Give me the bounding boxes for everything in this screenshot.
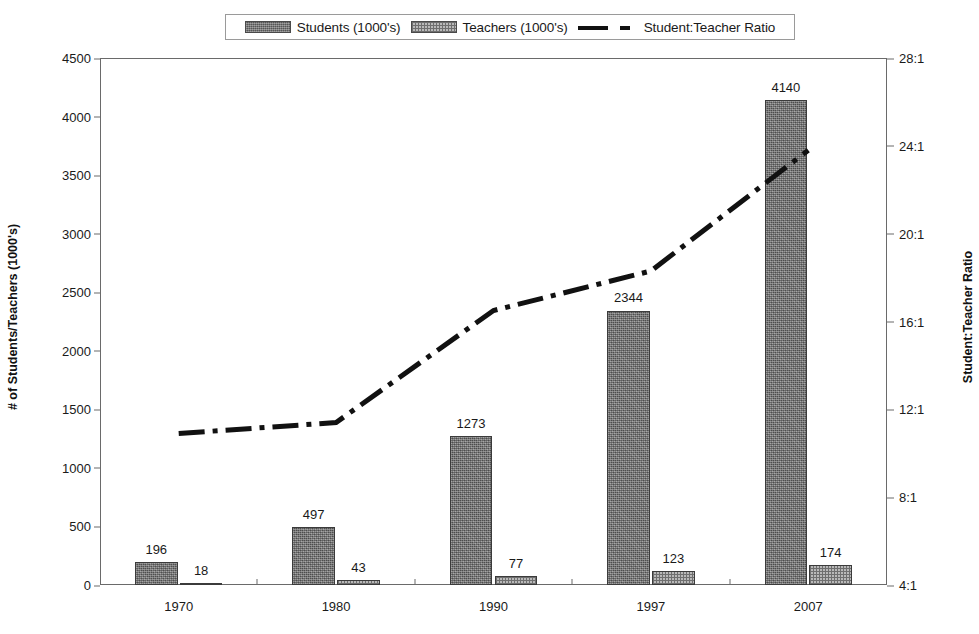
legend-label-teachers: Teachers (1000's)	[463, 20, 568, 35]
right-axis-title-text: Student:Teacher Ratio	[961, 251, 975, 383]
right-axis-title: Student:Teacher Ratio	[957, 0, 979, 634]
legend-label-students: Students (1000's)	[297, 20, 401, 35]
left-tick-label: 3000	[62, 226, 100, 241]
left-tick-label: 4000	[62, 109, 100, 124]
left-tick-label: 1000	[62, 460, 100, 475]
ratio-line-path[interactable]	[179, 150, 809, 433]
right-tick-label: 8:1	[887, 490, 917, 505]
right-tick-label: 16:1	[887, 314, 924, 329]
left-tick-label: 4500	[62, 51, 100, 66]
left-tick-label: 2000	[62, 343, 100, 358]
right-tick-label: 24:1	[887, 138, 924, 153]
right-tick-label: 4:1	[887, 578, 917, 593]
chart-legend: Students (1000's) Teachers (1000's) Stud…	[225, 14, 795, 40]
legend-item-ratio: Student:Teacher Ratio	[578, 20, 775, 35]
chart-plot-area: 450040003500300025002000150010005000 28:…	[100, 58, 887, 585]
left-tick-label: 3500	[62, 168, 100, 183]
left-axis-title: # of Students/Teachers (1000's)	[2, 0, 24, 634]
left-tick-label: 2500	[62, 285, 100, 300]
legend-item-teachers: Teachers (1000's)	[411, 20, 568, 35]
x-tick-label: 1997	[636, 599, 665, 614]
legend-label-ratio: Student:Teacher Ratio	[644, 20, 775, 35]
right-tick-label: 12:1	[887, 402, 924, 417]
left-tick-label: 500	[69, 519, 100, 534]
swatch-students-icon	[245, 21, 291, 33]
dash-dot-line-icon	[578, 21, 638, 33]
ratio-line-layer	[100, 58, 887, 585]
x-tick-label: 1970	[164, 599, 193, 614]
right-tick-label: 28:1	[887, 51, 924, 66]
left-tick-label: 1500	[62, 402, 100, 417]
left-axis-title-text: # of Students/Teachers (1000's)	[6, 224, 20, 410]
x-tick-label: 1990	[479, 599, 508, 614]
x-tick-label: 1980	[322, 599, 351, 614]
legend-item-students: Students (1000's)	[245, 20, 401, 35]
right-tick-label: 20:1	[887, 226, 924, 241]
x-tick-label: 2007	[794, 599, 823, 614]
left-tick-label: 0	[84, 578, 100, 593]
swatch-teachers-icon	[411, 21, 457, 33]
